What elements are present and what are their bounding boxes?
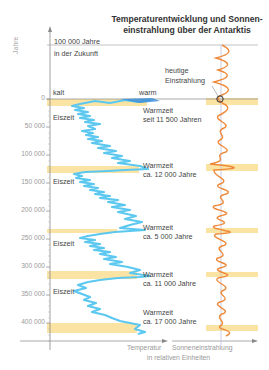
y-axis-arrow [48, 26, 52, 32]
warm-period-4-label: Warmzeit ca. 11 000 Jahre [143, 270, 196, 288]
units-label: in relativen Einheiten [147, 353, 210, 362]
warm-period-3-label: Warmzeit ca. 5 000 Jahre [143, 223, 193, 241]
y-tick-300000: 300 000 [3, 262, 45, 269]
warm-label: warm [139, 88, 157, 97]
future-label-line-1: 100 000 Jahre [54, 37, 100, 46]
current-insolation-label-2: Einstrahlung [165, 76, 205, 85]
warm-period-2-label: Warmzeit ca. 12 000 Jahre [143, 161, 197, 179]
warm-period-5-label: Warmzeit ca. 17 000 Jahre [143, 308, 197, 326]
y-tick-0: 0 [3, 94, 45, 101]
warm-period-1-label: Warmzeit seit 11 500 Jahren [143, 106, 202, 124]
ice-age-label-4: Eiszeit [53, 287, 74, 296]
temperature-axis-label: Temperatur [127, 343, 161, 352]
future-label-line-2: in der Zukunft [54, 49, 98, 58]
y-tick-350000: 350 000 [3, 290, 45, 297]
ice-age-label-1: Eiszeit [53, 113, 74, 122]
ice-age-label-2: Eiszeit [53, 177, 74, 186]
annotation-leader-line [212, 86, 218, 96]
warm-period-bands [47, 98, 258, 333]
y-tick-50000: 50 000 [3, 122, 45, 129]
chart-canvas [0, 0, 269, 370]
y-tick-100000: 100 000 [3, 150, 45, 157]
insolation-axis-label: Sonneneinstrahlung [172, 343, 232, 352]
y-tick-250000: 250 000 [3, 234, 45, 241]
y-tick-150000: 150 000 [3, 178, 45, 185]
ice-age-label-3: Eiszeit [53, 239, 74, 248]
y-tick-400000: 400 000 [3, 318, 45, 325]
cold-label: kalt [53, 88, 64, 97]
y-tick-200000: 200 000 [3, 206, 45, 213]
temperature-curve [72, 100, 150, 334]
y-ticks [46, 99, 50, 323]
current-insolation-label-1: heutige [165, 66, 189, 75]
